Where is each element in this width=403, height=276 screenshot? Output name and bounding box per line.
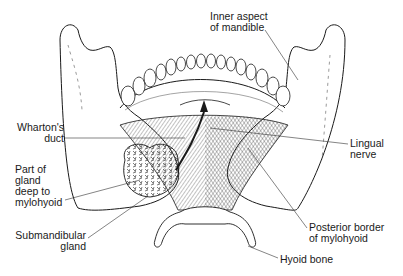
label-whartons-duct: Wharton's duct [12, 122, 64, 144]
label-hyoid-bone: Hyoid bone [280, 254, 333, 265]
hyoid-bone [154, 207, 255, 247]
label-part-of-gland-deep-to-mylohyoid: Part of gland deep to mylohyoid [15, 164, 62, 208]
label-posterior-border-of-mylohyoid: Posterior border of mylohyoid [309, 222, 384, 244]
label-inner-aspect-of-mandible: Inner aspect of mandible [210, 11, 268, 33]
label-submandibular-gland: Submandibular gland [14, 230, 86, 252]
label-lingual-nerve: Lingual nerve [350, 138, 384, 160]
anatomy-diagram: Inner aspect of mandible Wharton's duct … [0, 0, 403, 276]
